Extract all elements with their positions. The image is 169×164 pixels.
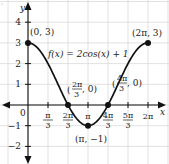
function-label: f(x) = 2cos(x) + 1 — [47, 49, 129, 59]
key-point-marker — [105, 102, 111, 108]
x-tick-label-denominator: 3 — [45, 121, 50, 130]
y-tick-label: 2 — [15, 59, 21, 69]
zero1-rest: , 0) — [82, 84, 97, 94]
zero1-denominator: 3 — [74, 90, 79, 99]
x-tick-label-denominator: 3 — [125, 121, 130, 130]
point-label-0-3: (0, 3) — [30, 27, 54, 37]
point-label-2pi3-0: ( 2π 3 , 0) — [67, 80, 97, 99]
y-tick-label: −2 — [8, 141, 21, 151]
svg-text:(: ( — [67, 85, 71, 95]
key-point-marker — [145, 40, 151, 46]
x-tick-label-denominator: 3 — [65, 121, 70, 130]
y-axis-up-arrow-icon — [25, 2, 32, 10]
x-axis-left-arrow-icon — [2, 102, 10, 109]
svg-text:(: ( — [112, 79, 116, 89]
key-point-marker — [25, 40, 31, 46]
x-tick-label-numerator: 5π — [123, 111, 133, 120]
x-axis-label: x — [160, 107, 165, 117]
point-label-2pi-3: (2π, 3) — [132, 28, 162, 38]
zero2-rest: , 0) — [127, 78, 142, 88]
key-point-marker — [85, 123, 91, 129]
stray-dot — [1, 3, 2, 4]
zero2-denominator: 3 — [119, 84, 124, 93]
zero2-numerator: 4π — [117, 74, 127, 83]
x-tick-label: 2π — [143, 112, 153, 121]
y-axis-label: y — [19, 3, 26, 13]
y-axis-down-arrow-icon — [25, 156, 32, 164]
x-tick-label-numerator: π — [45, 111, 50, 120]
y-tick-label: 1 — [15, 79, 21, 89]
point-label-4pi3-0: ( 4π 3 , 0) — [112, 74, 142, 93]
x-tick-label: π — [85, 112, 90, 121]
x-tick-label-denominator: 3 — [105, 121, 110, 130]
key-point-marker — [65, 102, 71, 108]
point-label-pi-minus1: (π, −1) — [75, 134, 107, 144]
graph-canvas: π32π3π4π35π32π4321−1−2 y x 0 (0, 3) (2π,… — [0, 0, 169, 164]
y-tick-label: −1 — [8, 121, 21, 131]
y-tick-label: 4 — [15, 17, 21, 27]
origin-label: 0 — [20, 108, 26, 118]
zero1-numerator: 2π — [72, 80, 82, 89]
y-tick-label: 3 — [15, 38, 21, 48]
